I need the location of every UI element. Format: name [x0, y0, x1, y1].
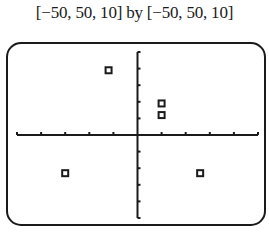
data-point	[159, 100, 165, 106]
calculator-screen	[0, 0, 269, 235]
data-point	[106, 67, 112, 73]
data-point	[62, 170, 68, 176]
data-point	[159, 112, 165, 118]
data-points	[62, 67, 203, 176]
data-point	[197, 170, 203, 176]
axes	[17, 52, 258, 218]
